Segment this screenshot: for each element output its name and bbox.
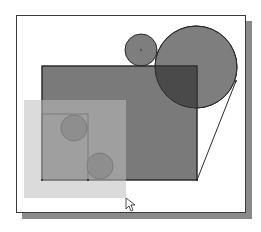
small-circle-center-mark [140, 49, 142, 51]
selection-window [24, 100, 126, 198]
sketch-canvas[interactable] [0, 0, 261, 232]
arrow-pointer-icon [126, 198, 135, 211]
